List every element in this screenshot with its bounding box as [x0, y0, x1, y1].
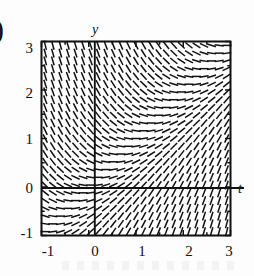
y-tick-label-3: 3 [26, 40, 34, 56]
y-axis-label: y [90, 22, 99, 37]
x-tick-label-2: 2 [185, 243, 193, 259]
x-tick-label-neg1: -1 [42, 243, 55, 259]
y-tick-label-1: 1 [26, 131, 34, 147]
figure-page: ) 3 2 1 0 -1 -1 0 1 2 3 [0, 0, 254, 276]
x-tick-label-3: 3 [225, 243, 233, 259]
y-tick-label-neg1: -1 [21, 225, 34, 241]
y-tick-label-2: 2 [26, 85, 34, 101]
scan-artifact-strip [62, 261, 242, 270]
x-tick-label-1: 1 [138, 243, 146, 259]
x-tick-label-0: 0 [91, 243, 99, 259]
slope-field-plot: 3 2 1 0 -1 -1 0 1 2 3 y t [0, 0, 254, 276]
y-tick-label-0: 0 [26, 180, 34, 196]
slope-field-svg: 3 2 1 0 -1 -1 0 1 2 3 y t [0, 0, 254, 276]
